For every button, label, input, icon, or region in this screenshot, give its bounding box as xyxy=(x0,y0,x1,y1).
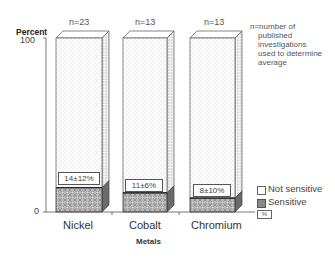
value-label-nickel: 14±12% xyxy=(58,172,100,185)
n-label-cobalt: n=13 xyxy=(135,17,155,27)
category-nickel: Nickel xyxy=(63,219,93,231)
legend-swatch-not-sensitive xyxy=(257,186,266,195)
x-axis-title: Metals xyxy=(136,237,161,246)
y-tick-0: 0 xyxy=(34,206,39,216)
value-label-chromium: 8±10% xyxy=(193,184,231,197)
value-label-cobalt: 11±6% xyxy=(125,179,163,192)
y-tick-100: 100 xyxy=(20,35,35,45)
legend-label-sensitive: Sensitive xyxy=(268,196,307,207)
n-label-chromium: n=13 xyxy=(204,17,224,27)
legend-swatch-percent: % xyxy=(257,210,272,219)
category-cobalt: Cobalt xyxy=(129,219,161,231)
annotation-line5: average xyxy=(258,58,287,68)
legend-swatch-sensitive xyxy=(257,199,266,208)
category-chromium: Chromium xyxy=(191,219,242,231)
n-label-nickel: n=23 xyxy=(69,17,89,27)
legend-label-not-sensitive: Not sensitive xyxy=(268,183,322,194)
